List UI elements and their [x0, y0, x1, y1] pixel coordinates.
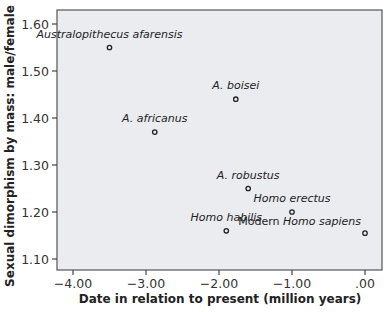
plot-area — [57, 10, 382, 270]
point-label: A. robustus — [216, 169, 280, 182]
scatter-chart: 1.101.201.301.401.501.60 −4.00−3.00−2.00… — [0, 0, 391, 312]
x-tick-label: .00 — [355, 276, 375, 291]
point-label: Australopithecus afarensis — [35, 28, 182, 41]
y-tick-label: 1.40 — [21, 111, 49, 126]
x-tick-label: −2.00 — [200, 276, 238, 291]
point-label: A. boisei — [211, 79, 259, 92]
y-tick-label: 1.20 — [21, 205, 49, 220]
y-tick-label: 1.50 — [21, 64, 49, 79]
y-tick-label: 1.30 — [21, 158, 49, 173]
point-label: Homo erectus — [253, 192, 330, 205]
y-axis: 1.101.201.301.401.501.60 — [21, 17, 57, 267]
y-tick-label: 1.10 — [21, 252, 49, 267]
point-label: Modern Homo sapiens — [238, 215, 361, 228]
x-axis: −4.00−3.00−2.00−1.00.00 — [54, 270, 375, 291]
point-label: A. africanus — [121, 112, 188, 125]
x-tick-label: −1.00 — [273, 276, 311, 291]
x-tick-label: −4.00 — [54, 276, 92, 291]
x-tick-label: −3.00 — [127, 276, 165, 291]
x-axis-title: Date in relation to present (million yea… — [79, 292, 362, 306]
y-axis-title: Sexual dimorphism by mass: male/female — [3, 5, 17, 287]
